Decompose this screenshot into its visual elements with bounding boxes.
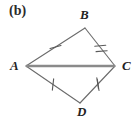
tick-marks-AB xyxy=(50,41,61,52)
vertex-label-B: B xyxy=(80,8,89,21)
geometry-figure: (b) A B C D xyxy=(0,0,138,126)
kite-diagram-svg xyxy=(0,0,138,126)
tick-marks-DA xyxy=(48,79,59,90)
vertex-label-D: D xyxy=(77,105,86,118)
edge-BC xyxy=(85,28,115,66)
vertex-label-A: A xyxy=(10,59,19,72)
vertex-label-C: C xyxy=(122,59,131,72)
